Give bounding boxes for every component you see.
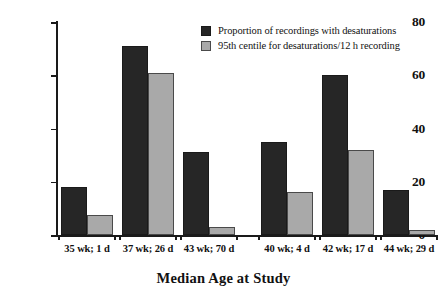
bar-proportion-2 — [183, 152, 209, 235]
bar-proportion-3 — [261, 142, 287, 235]
x-axis-category-label: 35 wk; 1 d — [64, 243, 109, 254]
y-axis-tick — [51, 235, 57, 237]
x-axis-tick — [436, 235, 438, 240]
x-axis-tick — [375, 235, 377, 240]
y-axis-tick-label: 20 — [412, 174, 425, 190]
legend-item-proportion: Proportion of recordings with desaturati… — [201, 24, 400, 37]
chart-legend: Proportion of recordings with desaturati… — [201, 24, 400, 54]
y-axis-tick — [51, 75, 57, 77]
bar-centile-1 — [148, 73, 174, 235]
x-axis-tick — [314, 235, 316, 240]
bar-centile-3 — [287, 192, 313, 235]
x-axis-tick — [114, 235, 116, 240]
x-axis-tick — [319, 235, 321, 240]
x-axis-tick — [380, 235, 382, 240]
y-axis-tick — [51, 22, 57, 24]
x-axis-tick — [119, 235, 121, 240]
bar-proportion-0 — [61, 187, 87, 235]
bar-proportion-1 — [122, 46, 148, 235]
legend-swatch-light-icon — [201, 41, 211, 51]
x-axis-category-label: 40 wk; 4 d — [264, 243, 309, 254]
bar-proportion-4 — [322, 75, 348, 235]
bar-centile-5 — [409, 230, 435, 235]
bar-centile-2 — [209, 227, 235, 235]
bar-centile-4 — [348, 150, 374, 235]
y-axis-tick — [51, 129, 57, 131]
legend-swatch-dark-icon — [201, 26, 211, 36]
x-axis-category-label: 44 wk; 29 d — [384, 243, 435, 254]
x-axis-tick — [180, 235, 182, 240]
y-axis-tick-label: 60 — [412, 67, 425, 83]
y-axis-tick — [51, 182, 57, 184]
x-axis-tick — [175, 235, 177, 240]
x-axis-tick — [258, 235, 260, 240]
bar-centile-0 — [87, 215, 113, 235]
x-axis-title: Median Age at Study — [0, 270, 447, 287]
legend-item-centile: 95th centile for desaturations/12 h reco… — [201, 39, 400, 52]
bar-proportion-5 — [383, 190, 409, 235]
x-axis-tick — [236, 235, 238, 240]
x-axis-line — [56, 235, 437, 237]
y-axis-tick-label: 40 — [412, 121, 425, 137]
x-axis-category-label: 42 wk; 17 d — [323, 243, 374, 254]
chart-figure: 020406080 % Recordings // Desaturations/… — [0, 0, 447, 298]
legend-label-proportion: Proportion of recordings with desaturati… — [218, 25, 396, 36]
legend-label-centile: 95th centile for desaturations/12 h reco… — [218, 40, 400, 51]
x-axis-category-label: 37 wk; 26 d — [123, 243, 174, 254]
x-axis-tick — [58, 235, 60, 240]
y-axis-tick-label: 80 — [412, 14, 425, 30]
x-axis-category-label: 43 wk; 70 d — [184, 243, 235, 254]
